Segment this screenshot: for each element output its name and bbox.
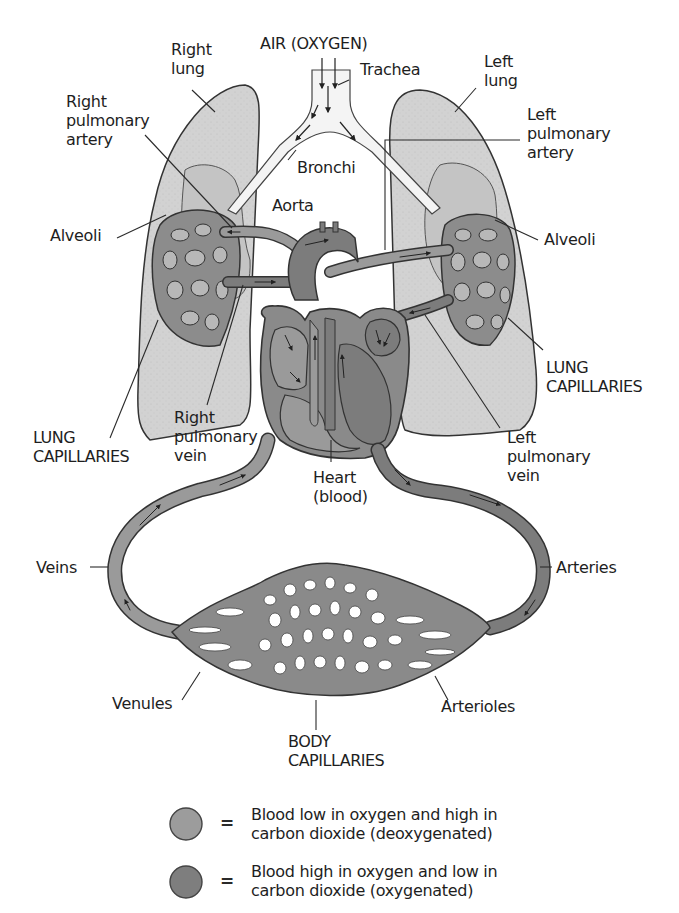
legend-text-deoxygenated: Blood low in oxygen and high in carbon d… [251, 805, 497, 843]
label-heart: Heart (blood) [313, 468, 368, 506]
label-alveoli-right-lung: Alveoli [50, 226, 101, 245]
legend-swatch-oxygenated [170, 866, 202, 898]
label-veins: Veins [36, 558, 77, 577]
label-lung-capillaries-right: LUNG CAPILLARIES [33, 428, 129, 466]
label-alveoli-left-lung: Alveoli [544, 230, 595, 249]
label-left-pulmonary-artery: Left pulmonary artery [527, 105, 610, 162]
label-air-oxygen: AIR (OXYGEN) [260, 34, 368, 53]
label-left-pulmonary-vein: Left pulmonary vein [507, 428, 590, 485]
label-arteries: Arteries [556, 558, 616, 577]
circulation-diagram: AIR (OXYGEN) Trachea Right lung Left lun… [0, 0, 679, 913]
label-right-lung: Right lung [171, 40, 212, 78]
legend-equals-deoxygenated: = [220, 813, 234, 833]
label-right-pulmonary-vein: Right pulmonary vein [174, 408, 257, 465]
label-lung-capillaries-left: LUNG CAPILLARIES [546, 358, 642, 396]
legend-swatch-deoxygenated [170, 808, 202, 840]
label-bronchi: Bronchi [297, 158, 355, 177]
label-right-pulmonary-artery: Right pulmonary artery [66, 92, 149, 149]
body-capillary-bed [172, 563, 490, 695]
heart [261, 306, 410, 459]
label-trachea: Trachea [360, 60, 420, 79]
label-arterioles: Arterioles [441, 697, 515, 716]
legend-text-oxygenated: Blood high in oxygen and low in carbon d… [251, 862, 497, 900]
label-aorta: Aorta [272, 196, 314, 215]
legend-equals-oxygenated: = [220, 871, 234, 891]
label-body-capillaries: BODY CAPILLARIES [288, 732, 384, 770]
label-venules: Venules [112, 694, 172, 713]
label-left-lung: Left lung [484, 52, 518, 90]
